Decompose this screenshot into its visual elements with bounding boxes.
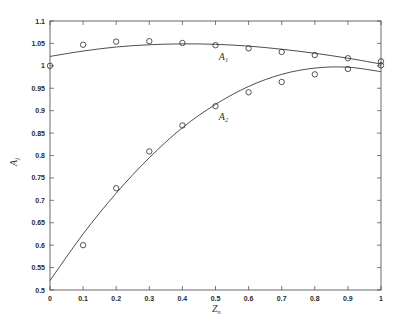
data-point-marker (213, 43, 218, 48)
data-point-marker (147, 149, 152, 154)
fit-curve-0 (50, 44, 381, 64)
y-tick-label: 0.7 (35, 197, 45, 204)
x-axis-label: Zn (212, 303, 221, 315)
data-point-marker (279, 79, 284, 84)
x-tick-label: 0.4 (178, 295, 188, 302)
y-tick-label: 1.05 (31, 40, 45, 47)
y-tick-label: 0.95 (31, 85, 45, 92)
data-point-marker (80, 242, 85, 247)
data-point-marker (246, 90, 251, 95)
x-tick-label: 0.6 (244, 295, 254, 302)
y-tick-label: 0.8 (35, 152, 45, 159)
data-point-marker (312, 72, 317, 77)
y-tick-label: 0.85 (31, 130, 45, 137)
y-tick-label: 0.55 (31, 264, 45, 271)
data-point-marker (114, 39, 119, 44)
y-tick-label: 1.1 (35, 18, 45, 25)
x-tick-label: 0.5 (211, 295, 221, 302)
data-point-marker (279, 49, 284, 54)
data-point-marker (180, 40, 185, 45)
y-tick-label: 0.5 (35, 287, 45, 294)
x-tick-label: 0.7 (277, 295, 287, 302)
x-tick-label: 0.8 (310, 295, 320, 302)
x-tick-label: 1 (379, 295, 383, 302)
data-point-marker (80, 42, 85, 47)
plot-area-frame (50, 21, 381, 290)
x-tick-label: 0.9 (343, 295, 353, 302)
x-tick-label: 0.2 (111, 295, 121, 302)
curve-label-1: A2 (218, 111, 229, 123)
data-point-marker (114, 186, 119, 191)
x-tick-label: 0 (48, 295, 52, 302)
x-tick-label: 0.1 (78, 295, 88, 302)
line-chart: 00.10.20.30.40.50.60.70.80.910.50.550.60… (0, 0, 399, 330)
y-tick-label: 1 (41, 62, 45, 69)
y-tick-label: 0.75 (31, 174, 45, 181)
y-axis-label: Aj (8, 158, 20, 167)
curve-label-0: A1 (218, 51, 228, 63)
y-tick-label: 0.6 (35, 242, 45, 249)
fit-curve-2 (50, 67, 381, 281)
x-tick-label: 0.3 (144, 295, 154, 302)
data-point-marker (147, 38, 152, 43)
chart-figure: 00.10.20.30.40.50.60.70.80.910.50.550.60… (0, 0, 399, 330)
y-tick-label: 0.65 (31, 219, 45, 226)
y-tick-label: 0.9 (35, 107, 45, 114)
